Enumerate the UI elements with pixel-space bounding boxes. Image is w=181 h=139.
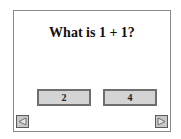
- answer-button-4[interactable]: 4: [103, 89, 157, 106]
- right-arrow-icon: [157, 117, 166, 126]
- answer-button-2[interactable]: 2: [37, 89, 91, 106]
- previous-button[interactable]: [16, 115, 29, 128]
- next-button[interactable]: [155, 115, 168, 128]
- question-title: What is 1 + 1?: [14, 25, 170, 41]
- quiz-card: What is 1 + 1? 2 4: [13, 10, 171, 132]
- left-arrow-icon: [18, 117, 27, 126]
